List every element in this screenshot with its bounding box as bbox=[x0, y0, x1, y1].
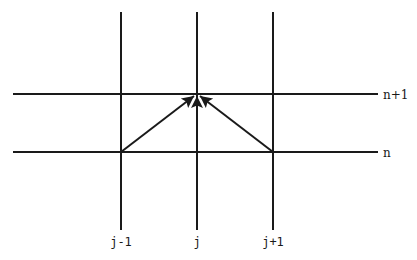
row-label-n-plus-1: n+1 bbox=[383, 88, 408, 102]
col-label-j-plus-1: j+1 bbox=[262, 235, 284, 249]
arrow-left-diagonal bbox=[121, 96, 194, 152]
col-label-j-minus-1: j-1 bbox=[110, 235, 132, 249]
arrow-right-diagonal bbox=[200, 96, 273, 152]
col-label-j: j bbox=[193, 235, 200, 249]
stencil-diagram: n+1 n j-1 j j+1 bbox=[0, 0, 417, 260]
row-label-n: n bbox=[383, 146, 391, 160]
